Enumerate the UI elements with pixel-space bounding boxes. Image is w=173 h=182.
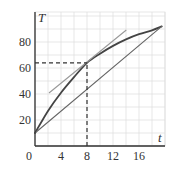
x-tick-label: 8 xyxy=(84,149,90,163)
x-tick-label: 16 xyxy=(133,149,145,163)
x-tick-label: 12 xyxy=(107,149,119,163)
origin-label: 0 xyxy=(26,149,32,163)
y-tick-label: 20 xyxy=(19,113,31,127)
series-secant xyxy=(35,26,162,133)
y-tick-label: 80 xyxy=(19,35,31,49)
chart: T t 0 48121620406080 xyxy=(0,0,173,182)
y-tick-label: 40 xyxy=(19,87,31,101)
x-tick-label: 4 xyxy=(58,149,64,163)
y-tick-label: 60 xyxy=(19,61,31,75)
series-layer xyxy=(35,26,162,133)
x-axis-label: t xyxy=(158,130,162,145)
y-axis-label: T xyxy=(38,10,46,25)
